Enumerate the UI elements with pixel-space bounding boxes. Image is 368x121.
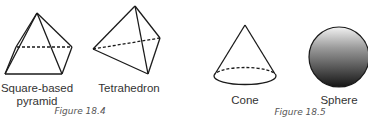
cone-icon <box>214 25 276 85</box>
tetrahedron-icon <box>93 6 160 74</box>
figure-18-4-caption: Figure 18.4 <box>40 106 120 116</box>
cone-label: Cone <box>220 94 270 107</box>
tetrahedron-label: Tetrahedron <box>94 82 164 95</box>
sphere-label: Sphere <box>310 94 368 107</box>
square-pyramid-icon <box>5 13 72 74</box>
sphere-icon <box>309 27 368 87</box>
figure-18-5-caption: Figure 18.5 <box>260 107 340 117</box>
square-pyramid-label-line1: Square-based <box>0 82 74 95</box>
square-pyramid-label: Square-based pyramid <box>0 82 74 108</box>
